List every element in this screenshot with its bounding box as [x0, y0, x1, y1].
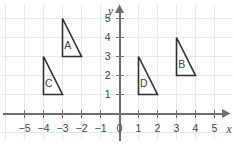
x-axis-tick-label: 3: [174, 122, 180, 134]
x-axis-tick-label: 5: [212, 122, 218, 134]
y-axis-name: y: [107, 5, 114, 18]
coordinate-plane-figure: −5−4−3−2−101234512345 ABCD xy: [0, 0, 235, 145]
y-axis-tick-label: 1: [105, 88, 111, 100]
x-axis-tick-label: −1: [95, 122, 107, 134]
y-axis-tick-label: 3: [105, 50, 111, 62]
x-axis-tick-label: −4: [38, 122, 50, 134]
shape-label-d: D: [140, 77, 148, 89]
axis-names: xy: [107, 5, 233, 135]
x-axis-tick-label: 4: [193, 122, 199, 134]
y-axis-arrow-icon: [115, 5, 124, 14]
coordinate-plane-svg: −5−4−3−2−101234512345 ABCD xy: [0, 0, 235, 145]
x-axis-tick-label: −2: [76, 122, 88, 134]
y-axis-tick-label: 4: [105, 31, 111, 43]
grid-lines: [2, 4, 233, 140]
x-axis-tick-label: 1: [136, 122, 142, 134]
shape-label-b: B: [178, 58, 185, 70]
shape-label-a: A: [64, 39, 71, 51]
x-axis-name: x: [225, 123, 232, 135]
x-axis-tick-label: −3: [57, 122, 69, 134]
x-axis-tick-label: 2: [155, 122, 161, 134]
x-axis-arrow-icon: [222, 109, 231, 118]
x-axis-tick-label: −5: [19, 122, 31, 134]
shape-label-c: C: [45, 77, 53, 89]
y-axis-tick-label: 2: [105, 69, 111, 81]
x-axis-tick-label: 0: [117, 122, 123, 134]
